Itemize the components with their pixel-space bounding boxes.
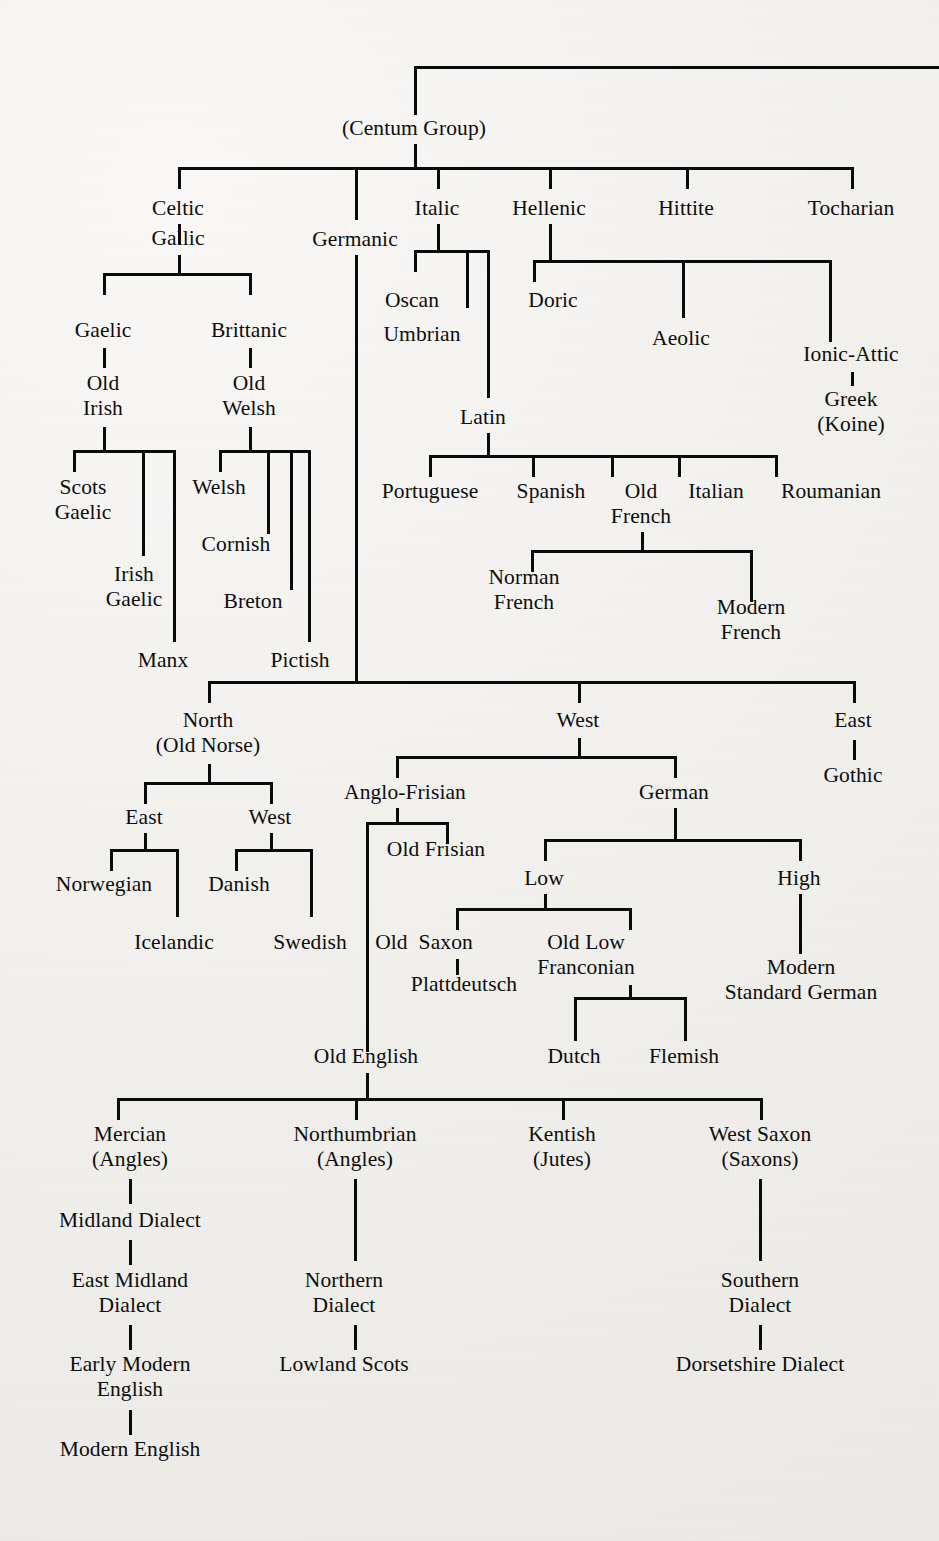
node-danish: Danish: [208, 872, 270, 897]
edge-latin-bar: [429, 455, 776, 458]
edge-to-east: [853, 681, 856, 703]
edge-to-norse-west: [270, 782, 273, 804]
edge-northumbrian-northern: [354, 1179, 357, 1261]
edge-gaelic-oldirish: [103, 348, 106, 368]
edge-germanic-bar: [208, 681, 856, 684]
edge-latin-down: [487, 433, 490, 457]
node-northumbrian: Northumbrian (Angles): [293, 1122, 416, 1172]
edge-to-spanish: [532, 455, 535, 477]
edge-to-aeolic: [682, 260, 685, 318]
node-east-midland-dialect: East Midland Dialect: [72, 1268, 188, 1318]
node-gallic: Gallic: [151, 226, 204, 251]
node-dorsetshire-dialect: Dorsetshire Dialect: [676, 1352, 844, 1377]
edge-hellenic-down: [549, 224, 552, 261]
node-old-low-franconian: Old Low Franconian: [537, 930, 635, 980]
edge-to-italic: [437, 167, 440, 189]
node-flemish: Flemish: [649, 1044, 719, 1069]
edge-to-old-saxon: [456, 908, 459, 930]
edge-ionic-greek: [851, 372, 854, 386]
edge-root-top: [414, 66, 939, 69]
edge-oldenglish-down: [366, 1073, 369, 1100]
edge-to-tocharian: [851, 167, 854, 189]
node-irish-gaelic: Irish Gaelic: [106, 562, 163, 612]
node-doric: Doric: [528, 288, 577, 313]
edge-to-oscan: [414, 250, 417, 272]
node-aeolic: Aeolic: [652, 326, 710, 351]
node-high: High: [777, 866, 820, 891]
edge-to-flemish: [684, 997, 687, 1041]
node-low: Low: [524, 866, 564, 891]
node-brittanic: Brittanic: [211, 318, 287, 343]
edge-oldfrench-down: [641, 532, 644, 552]
edge-to-swedish: [310, 849, 313, 917]
edge-italic-bar: [414, 250, 490, 253]
node-mercian: Mercian (Angles): [92, 1122, 168, 1172]
edge-gallic-bar: [103, 273, 252, 276]
node-manx: Manx: [138, 648, 189, 673]
node-midland-dialect: Midland Dialect: [59, 1208, 201, 1233]
node-dutch: Dutch: [547, 1044, 600, 1069]
node-swedish: Swedish: [273, 930, 347, 955]
edge-oldirish-down: [103, 427, 106, 452]
edge-to-breton: [290, 450, 293, 590]
node-old-english: Old English: [314, 1044, 418, 1069]
node-norse-west: West: [249, 805, 292, 830]
node-lowland-scots: Lowland Scots: [279, 1352, 409, 1377]
edge-to-norwegian: [110, 849, 113, 871]
edge-midland-eastmidland: [129, 1240, 132, 1265]
edge-mercian-midland: [129, 1179, 132, 1204]
edge-oldwelsh-down: [249, 427, 252, 452]
edge-oldirish-bar: [73, 450, 176, 453]
node-tocharian: Tocharian: [808, 196, 895, 221]
node-spanish: Spanish: [517, 479, 586, 504]
node-welsh: Welsh: [192, 475, 246, 500]
edge-to-manx: [173, 450, 176, 642]
edge-to-pictish: [308, 450, 311, 642]
edge-germanic-stem: [355, 255, 358, 683]
edge-to-high: [799, 839, 802, 861]
edge-to-irish-gaelic: [142, 450, 145, 556]
edge-to-roumanian: [775, 455, 778, 477]
node-kentish: Kentish (Jutes): [528, 1122, 596, 1172]
node-italian: Italian: [688, 479, 744, 504]
edge-low-bar: [456, 908, 632, 911]
node-hellenic: Hellenic: [512, 196, 586, 221]
node-modern-french: Modern French: [717, 595, 786, 645]
node-old-saxon: Old Saxon: [375, 930, 473, 955]
node-west-saxon: West Saxon (Saxons): [709, 1122, 812, 1172]
node-gothic: Gothic: [823, 763, 882, 788]
node-norwegian: Norwegian: [56, 872, 152, 897]
edge-root-stem: [414, 66, 417, 115]
edge-to-hittite: [686, 167, 689, 189]
edge-german-bar: [544, 839, 802, 842]
node-greek-koine: Greek (Koine): [817, 387, 885, 437]
edge-to-danish: [235, 849, 238, 871]
edge-norse-east-bar: [110, 849, 179, 852]
edge-westsaxon-southern: [759, 1179, 762, 1261]
edge-level1-bar: [178, 167, 854, 170]
node-celtic: Celtic: [152, 196, 204, 221]
node-north-old-norse: North (Old Norse): [156, 708, 260, 758]
edge-to-gaelic: [103, 273, 106, 295]
node-scots-gaelic: Scots Gaelic: [55, 475, 112, 525]
edge-to-old-low-franconian: [629, 908, 632, 930]
language-family-tree-diagram: (Centum Group) Celtic Germanic Italic He…: [0, 0, 939, 1541]
edge-gallic-down: [178, 255, 181, 275]
edge-to-portuguese: [429, 455, 432, 477]
edge-oldfrench-bar: [531, 550, 753, 553]
node-old-welsh: Old Welsh: [222, 371, 276, 421]
edge-to-celtic: [178, 167, 181, 189]
edge-anglofrisian-bar: [366, 822, 449, 825]
node-northern-dialect: Northern Dialect: [305, 1268, 383, 1318]
edge-eastmidland-earlymodern: [129, 1325, 132, 1350]
node-west-germanic: West: [557, 708, 600, 733]
edge-east-gothic: [853, 740, 856, 760]
edge-to-west-saxon: [760, 1098, 763, 1120]
edge-high-msg: [799, 894, 802, 954]
edge-to-north: [208, 681, 211, 703]
node-old-french: Old French: [611, 479, 671, 529]
node-gaelic: Gaelic: [75, 318, 132, 343]
node-centum-group: (Centum Group): [342, 116, 486, 141]
edge-to-norse-east: [144, 782, 147, 804]
node-icelandic: Icelandic: [134, 930, 214, 955]
